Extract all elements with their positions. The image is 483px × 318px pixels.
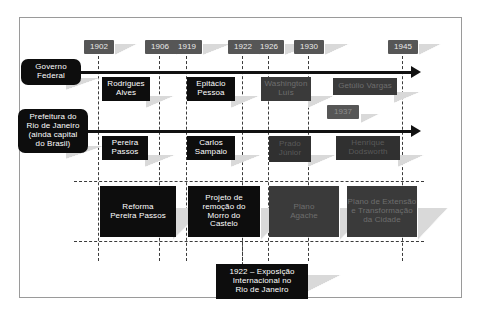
entry-shadow [308,155,336,167]
entry-shadow [394,92,420,103]
year-chip-1906: 1906 [145,40,175,54]
year-shadow [419,44,441,55]
axis-governo-federal [62,71,412,74]
arrow-head-icon [411,125,421,137]
entry-shadow [146,96,174,108]
entry-shadow [145,155,175,167]
timeline-diagram: 1902 1906 1919 1922 1926 1930 1945 Gover… [0,0,483,318]
caption-shadow [305,275,341,293]
year-shadow [115,44,137,55]
year-shadow [325,44,349,55]
project-shadow [418,208,448,240]
arrow-head-icon [411,66,421,78]
year-chip-1930: 1930 [294,40,324,54]
entry-shadow [231,155,261,167]
project-remocao-morro-do-castelo: Projeto de remoção do Morro do Castelo [188,186,260,237]
row-label-prefeitura-rio: Prefeitura do Rio de Janeiro (ainda capi… [18,109,88,153]
year-chip-1902: 1902 [84,40,114,54]
year-chip-1926: 1926 [254,40,284,54]
year-shadow [203,44,231,55]
year-chip-1945: 1945 [388,40,418,54]
entry-pereira-passos: Pereira Passos [102,136,148,160]
entry-rodrigues-alves: Rodrigues Alves [102,77,150,101]
entry-shadow [231,96,259,108]
project-plano-agache: Plano Agache [269,186,339,237]
caption-exposicao-internacional-1922: 1922 – Exposição Internacional no Rio de… [216,264,308,299]
entry-washington-luis: Washington Luís [261,77,311,101]
year-chip-1919: 1919 [172,40,202,54]
year-chip-1937: 1937 [327,105,359,119]
axis-prefeitura-rio [62,130,412,133]
project-reforma-pereira-passos: Reforma Pereira Passos [100,186,176,237]
year-shadow [361,114,379,123]
entry-prado-junior: Prado Júnior [269,136,311,162]
entry-epitacio-pessoa: Epitácio Pessoa [187,77,235,101]
gridline-1902 [98,56,99,261]
gridline-projects-top [74,181,424,182]
gridline-projects-bottom [74,241,424,242]
diagram-frame: 1902 1906 1919 1922 1926 1930 1945 Gover… [19,17,462,298]
entry-getulio-vargas: Getúlio Vargas [333,78,397,95]
entry-carlos-sampaio: Carlos Sampaio [187,136,235,160]
entry-henrique-dodsworth: Henrique Dodsworth [336,136,400,160]
row-label-governo-federal: Governo Federal [21,59,81,85]
project-plano-extensao-transformacao: Plano de Extensão e Transformação da Cid… [347,186,417,237]
